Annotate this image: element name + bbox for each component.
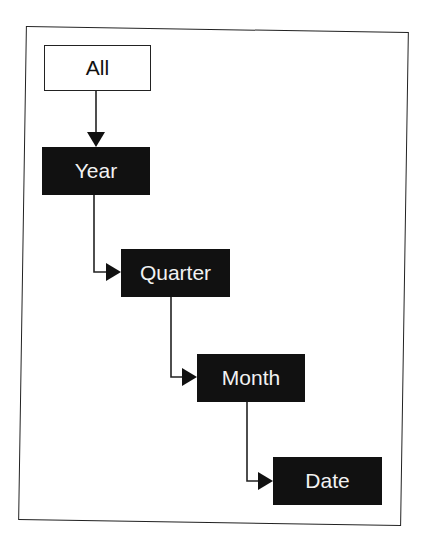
node-label: Quarter (140, 261, 211, 285)
node-date: Date (273, 457, 382, 505)
arrow-right-icon (258, 472, 273, 490)
arrow-down-icon (87, 132, 105, 147)
node-label: Year (75, 159, 117, 183)
node-all: All (44, 45, 151, 91)
node-quarter: Quarter (121, 249, 230, 297)
node-month: Month (197, 354, 305, 402)
node-label: Month (222, 366, 280, 390)
arrow-right-icon (106, 263, 121, 281)
node-label: Date (305, 469, 349, 493)
node-year: Year (42, 147, 150, 195)
arrow-right-icon (182, 368, 197, 386)
node-label: All (86, 56, 109, 80)
